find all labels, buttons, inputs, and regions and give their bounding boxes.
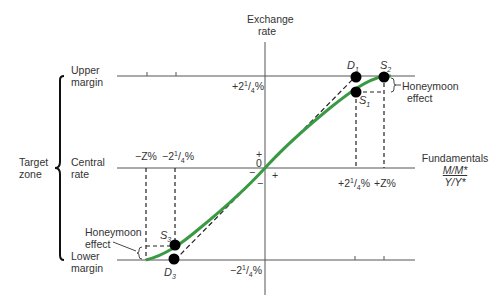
- label-S3: S3: [160, 229, 171, 241]
- x-axis-fraction-numerator: M/M*: [410, 164, 499, 176]
- upper-margin-label: Upper margin: [71, 64, 103, 88]
- upper-margin-line2: margin: [71, 76, 103, 88]
- honeymoon-upper-line1: Honeymoon: [402, 80, 459, 92]
- origin-zero: 0: [256, 157, 262, 169]
- x-axis-label-text: Fundamentals: [410, 152, 499, 164]
- honeymoon-label-upper: Honeymoon effect: [402, 80, 459, 104]
- label-S1: S1: [359, 94, 370, 106]
- origin-plus-right: +: [272, 169, 278, 181]
- x-tick-neg-quarter: −21/4%: [162, 150, 194, 162]
- y-tick-lower: −21/4%: [230, 264, 262, 276]
- honeymoon-brace-upper: [391, 78, 396, 92]
- origin-minus-left: −: [249, 166, 255, 178]
- lower-margin-line2: margin: [71, 262, 103, 274]
- target-zone-label: Target zone: [19, 156, 48, 180]
- target-zone-label-line2: zone: [19, 168, 48, 180]
- x-axis-label: Fundamentals M/M* Y/Y*: [410, 152, 499, 188]
- honeymoon-lower-line1: Honeymoon: [85, 226, 142, 238]
- x-tick-pos-quarter: +21/4%: [338, 177, 370, 189]
- y-axis-label-line1: Exchange: [247, 13, 287, 25]
- central-rate-line2: rate: [71, 168, 105, 180]
- honeymoon-label-lower: Honeymoon effect: [85, 226, 142, 250]
- target-zone-brace: [55, 76, 64, 260]
- label-D1: D1: [347, 59, 359, 71]
- upper-margin-line1: Upper: [71, 64, 103, 76]
- lower-margin-line1: Lower: [71, 250, 103, 262]
- honeymoon-upper-line2: effect: [402, 92, 459, 104]
- honeymoon-lower-line2: effect: [85, 238, 142, 250]
- lower-margin-label: Lower margin: [71, 250, 103, 274]
- x-tick-neg-z: −Z%: [135, 150, 157, 162]
- central-rate-line1: Central: [71, 156, 105, 168]
- label-S2: S2: [380, 59, 391, 71]
- x-axis-fraction-denominator: Y/Y*: [410, 176, 499, 188]
- x-tick-pos-z: +Z%: [374, 177, 396, 189]
- central-rate-label: Central rate: [71, 156, 105, 180]
- origin-minus-down: −: [257, 177, 263, 189]
- label-D3: D3: [164, 266, 176, 278]
- y-axis-label: Exchange rate: [247, 13, 287, 37]
- point-D3: [169, 254, 180, 265]
- y-tick-upper: +21/4%: [232, 80, 264, 92]
- y-axis-label-line2: rate: [247, 25, 287, 37]
- target-zone-label-line1: Target: [19, 156, 48, 168]
